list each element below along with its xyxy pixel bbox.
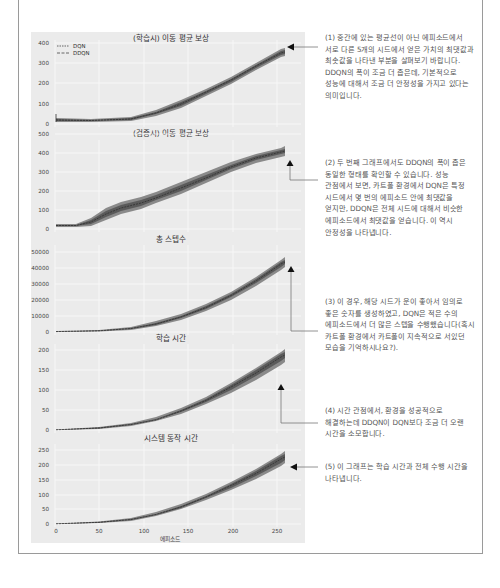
chart-train-reward: (학습시) 이동 평균 보상 400 300 200 100 0 DQN DDQ… — [38, 33, 301, 127]
chart-title: 시스템 동작 시간 — [144, 433, 198, 443]
svg-text:150: 150 — [38, 367, 49, 373]
band-ddqn — [56, 352, 285, 430]
svg-text:250: 250 — [38, 447, 49, 453]
svg-text:100: 100 — [38, 207, 49, 213]
annotation-4: (4) 시간 관점에서, 환경을 성공적으로 해결하는데 DDQN이 DQN보다… — [325, 405, 475, 440]
x-axis-title: 에피소드 — [160, 535, 181, 543]
svg-text:10000: 10000 — [31, 313, 49, 319]
legend-dqn-label: DQN — [73, 43, 85, 49]
svg-text:200: 200 — [38, 80, 49, 86]
y-axis-labels: 250 200 150 100 50 0 — [38, 447, 49, 527]
svg-text:150: 150 — [183, 528, 194, 534]
svg-text:200: 200 — [38, 347, 49, 353]
svg-text:30000: 30000 — [31, 281, 49, 287]
chart-title: (검증시) 이동 평균 보상 — [133, 128, 209, 138]
band-dqn — [56, 48, 285, 122]
svg-text:500: 500 — [38, 131, 49, 137]
y-axis-labels: 50000 40000 30000 20000 10000 0 — [31, 249, 49, 335]
svg-text:200: 200 — [38, 462, 49, 468]
svg-text:400: 400 — [38, 150, 49, 156]
svg-text:0: 0 — [45, 521, 49, 527]
y-axis-labels: 200 150 100 50 0 — [38, 347, 49, 433]
svg-text:300: 300 — [38, 169, 49, 175]
mean-line — [56, 355, 285, 430]
svg-text:50: 50 — [95, 528, 103, 534]
mean-line — [56, 457, 285, 524]
svg-text:40000: 40000 — [31, 265, 49, 271]
svg-text:400: 400 — [38, 40, 49, 46]
svg-text:0: 0 — [54, 528, 58, 534]
chart-train-time: 학습 시간 200 150 100 50 0 — [38, 333, 301, 433]
svg-text:200: 200 — [228, 528, 239, 534]
chart-title: 학습 시간 — [156, 333, 186, 343]
svg-text:50000: 50000 — [31, 249, 49, 255]
svg-text:100: 100 — [38, 101, 49, 107]
svg-text:50: 50 — [42, 407, 50, 413]
svg-text:0: 0 — [45, 329, 49, 335]
svg-text:0: 0 — [45, 226, 49, 232]
svg-text:100: 100 — [139, 528, 150, 534]
band-ddqn — [56, 454, 285, 524]
svg-text:100: 100 — [38, 492, 49, 498]
y-axis-labels: 500 400 300 200 100 0 — [38, 131, 49, 232]
svg-text:0: 0 — [45, 427, 49, 433]
legend-ddqn-label: DDQN — [73, 50, 90, 56]
annotation-3: (3) 이 경우, 해당 시드가 운이 좋아서 임의로 좋은 숫자를 생성하였고… — [325, 296, 475, 354]
svg-text:20000: 20000 — [31, 297, 49, 303]
band-dqn — [56, 451, 285, 524]
svg-text:100: 100 — [38, 387, 49, 393]
svg-text:0: 0 — [45, 121, 49, 127]
svg-text:200: 200 — [38, 188, 49, 194]
svg-text:50: 50 — [42, 506, 50, 512]
svg-text:300: 300 — [38, 60, 49, 66]
x-axis-labels: 0 50 100 150 200 250 — [54, 528, 283, 534]
chart-eval-reward: (검증시) 이동 평균 보상 500 400 300 200 100 0 — [38, 128, 301, 232]
svg-text:150: 150 — [38, 477, 49, 483]
chart-system-time: 시스템 동작 시간 250 200 150 100 50 0 0 50 100 … — [38, 433, 301, 543]
annotation-1: (1) 중간에 있는 평균선이 아닌 에피소드에서 서로 다른 5개의 시드에서… — [325, 32, 475, 102]
band-dqn — [56, 349, 285, 430]
annotation-2: (2) 두 번째 그래프에서도 DDQN의 폭이 좁은 동일한 형태를 확인할 … — [325, 157, 475, 238]
legend: DQN DDQN — [57, 43, 90, 56]
annotation-5: (5) 이 그래프는 학습 시간과 전체 수행 시간을 나타냅니다. — [325, 461, 475, 484]
chart-panel: (학습시) 이동 평균 보상 400 300 200 100 0 DQN DDQ… — [31, 32, 305, 543]
svg-text:250: 250 — [272, 528, 283, 534]
chart-total-steps: 총 스텝수 50000 40000 30000 20000 10000 0 — [31, 235, 301, 335]
chart-title: 총 스텝수 — [156, 235, 186, 244]
y-axis-labels: 400 300 200 100 0 — [38, 40, 49, 127]
charts-svg: (학습시) 이동 평균 보상 400 300 200 100 0 DQN DDQ… — [31, 32, 305, 543]
